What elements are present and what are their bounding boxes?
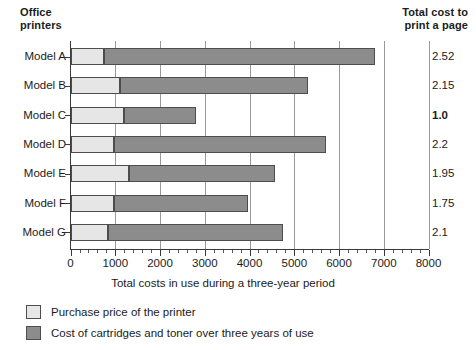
x-tick-minor xyxy=(258,250,259,253)
bar-model-g xyxy=(71,224,284,241)
x-tick-minor xyxy=(142,250,143,253)
x-tick-1000 xyxy=(115,250,116,256)
x-tick-minor xyxy=(330,250,331,253)
x-tick-6000 xyxy=(339,250,340,256)
x-axis-title: Total costs in use during a three-year p… xyxy=(0,276,446,290)
x-tick-minor xyxy=(196,250,197,253)
row-label-model-b: Model B xyxy=(8,79,66,92)
total-cost-per-page-header: Total cost to print a page xyxy=(390,6,476,32)
row-label-model-d: Model D xyxy=(8,138,66,151)
bar-model-c xyxy=(71,107,196,124)
x-tick-minor xyxy=(312,250,313,253)
x-tick-0 xyxy=(71,250,72,256)
x-tick-label-0: 0 xyxy=(49,257,93,270)
x-tick-label-5000: 5000 xyxy=(272,257,316,270)
x-tick-minor xyxy=(151,250,152,253)
legend-label-cartridges-toner: Cost of cartridges and toner over three … xyxy=(51,326,314,340)
cost-per-page-value-model-c: 1.0 xyxy=(432,109,472,122)
x-tick-minor xyxy=(187,250,188,253)
row-label-model-a: Model A xyxy=(8,50,66,63)
office-printers-header: Office printers xyxy=(20,6,100,32)
x-tick-minor xyxy=(303,250,304,253)
x-tick-2000 xyxy=(160,250,161,256)
bar-segment-purchase-price xyxy=(71,136,114,153)
x-tick-minor xyxy=(80,250,81,253)
bar-model-a xyxy=(71,48,375,65)
x-tick-minor xyxy=(420,250,421,253)
office-printers-header-line-2: printers xyxy=(20,19,100,32)
bar-segment-purchase-price xyxy=(71,77,120,94)
bar-segment-cartridges-toner xyxy=(114,195,248,212)
cost-per-page-value-model-e: 1.95 xyxy=(432,167,472,180)
bar-segment-cartridges-toner xyxy=(104,48,375,65)
x-tick-minor xyxy=(393,250,394,253)
legend-item-1: Purchase price of the printer xyxy=(26,303,446,321)
x-tick-minor xyxy=(285,250,286,253)
total-cost-per-page-header-line-1: Total cost to xyxy=(390,6,468,19)
legend: Purchase price of the printerCost of car… xyxy=(26,303,446,345)
bar-model-f xyxy=(71,195,249,212)
x-tick-label-4000: 4000 xyxy=(228,257,272,270)
x-tick-minor xyxy=(267,250,268,253)
x-tick-3000 xyxy=(205,250,206,256)
bar-segment-cartridges-toner xyxy=(124,107,196,124)
cost-per-page-value-model-a: 2.52 xyxy=(432,50,472,63)
x-tick-label-1000: 1000 xyxy=(93,257,137,270)
bar-segment-cartridges-toner xyxy=(129,165,275,182)
legend-swatch-purchase-price xyxy=(26,305,41,319)
x-tick-4000 xyxy=(250,250,251,256)
x-tick-minor xyxy=(232,250,233,253)
x-tick-minor xyxy=(348,250,349,253)
x-tick-label-7000: 7000 xyxy=(362,257,406,270)
x-tick-minor xyxy=(133,250,134,253)
x-tick-label-2000: 2000 xyxy=(138,257,182,270)
office-printers-header-line-1: Office xyxy=(20,6,100,19)
bar-segment-purchase-price xyxy=(71,195,114,212)
cost-per-page-value-model-f: 1.75 xyxy=(432,197,472,210)
x-tick-minor xyxy=(106,250,107,253)
x-tick-label-8000: 8000 xyxy=(407,257,451,270)
cost-per-page-value-model-d: 2.2 xyxy=(432,138,472,151)
x-tick-5000 xyxy=(294,250,295,256)
x-tick-minor xyxy=(169,250,170,253)
x-tick-minor xyxy=(366,250,367,253)
row-label-model-e: Model E xyxy=(8,167,66,180)
x-tick-minor xyxy=(88,250,89,253)
x-tick-minor xyxy=(97,250,98,253)
row-label-model-c: Model C xyxy=(8,109,66,122)
x-tick-minor xyxy=(241,250,242,253)
cost-comparison-chart: Office printers Total cost to print a pa… xyxy=(0,0,476,350)
bar-model-e xyxy=(71,165,276,182)
bar-segment-purchase-price xyxy=(71,48,105,65)
bar-segment-purchase-price xyxy=(71,224,108,241)
x-tick-minor xyxy=(402,250,403,253)
legend-item-2: Cost of cartridges and toner over three … xyxy=(26,324,446,342)
legend-swatch-cartridges-toner xyxy=(26,326,41,340)
x-tick-minor xyxy=(276,250,277,253)
x-tick-minor xyxy=(214,250,215,253)
cost-per-page-value-model-b: 2.15 xyxy=(432,79,472,92)
x-tick-label-3000: 3000 xyxy=(183,257,227,270)
x-tick-minor xyxy=(124,250,125,253)
x-tick-minor xyxy=(223,250,224,253)
x-tick-label-6000: 6000 xyxy=(317,257,361,270)
bar-model-d xyxy=(71,136,326,153)
bar-model-b xyxy=(71,77,308,94)
row-label-model-g: Model G xyxy=(8,226,66,239)
x-tick-minor xyxy=(357,250,358,253)
bar-segment-purchase-price xyxy=(71,107,125,124)
cost-per-page-value-model-g: 2.1 xyxy=(432,226,472,239)
gridline-6000 xyxy=(339,41,340,249)
bar-segment-cartridges-toner xyxy=(108,224,283,241)
total-cost-per-page-header-line-2: print a page xyxy=(390,19,468,32)
bar-segment-purchase-price xyxy=(71,165,129,182)
x-tick-minor xyxy=(375,250,376,253)
gridline-8000 xyxy=(429,41,430,249)
gridline-7000 xyxy=(384,41,385,249)
x-tick-7000 xyxy=(384,250,385,256)
bar-segment-cartridges-toner xyxy=(114,136,326,153)
x-tick-minor xyxy=(178,250,179,253)
x-tick-8000 xyxy=(429,250,430,256)
bar-segment-cartridges-toner xyxy=(120,77,308,94)
x-tick-minor xyxy=(321,250,322,253)
